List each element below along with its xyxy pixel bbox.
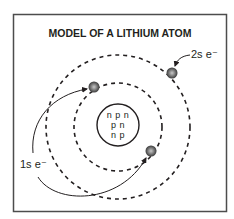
nucleus-row-2: p n [111, 120, 125, 130]
label-1s-electrons: 1s e⁻ [20, 158, 47, 170]
label-2s-electron: 2s e⁻ [191, 48, 218, 60]
electron-1s-b [146, 146, 157, 157]
nucleus-row-3: n p [111, 130, 125, 140]
electron-1s-a [89, 82, 100, 93]
nucleus-row-1: n p n [107, 110, 130, 120]
diagram-title: MODEL OF A LITHIUM ATOM [49, 27, 192, 39]
electron-2s [167, 68, 178, 79]
lithium-atom-diagram: MODEL OF A LITHIUM ATOM n p n p n n p 2s… [0, 0, 234, 219]
